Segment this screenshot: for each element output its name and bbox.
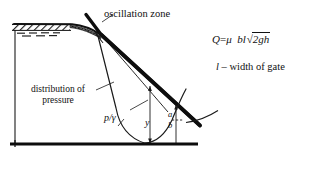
gate-profile-line (86, 15, 200, 126)
pressure-distribution-curve (98, 36, 186, 143)
ordinate-y-line (148, 86, 152, 144)
formula-radical: √2gh (246, 32, 271, 45)
water-surface-band (12, 24, 71, 30)
discharge-formula: Q=μ bl√2gh (212, 32, 270, 50)
formula-radicand: 2gh (252, 32, 271, 45)
note-symbol-l: l (216, 61, 219, 72)
gate-width-note: l – width of gate (216, 61, 285, 72)
label-depth-y: y (145, 118, 149, 129)
label-oscillation-zone: oscillation zone (104, 8, 170, 19)
leader-p-gamma (118, 100, 148, 126)
formula-Q: Q (212, 33, 220, 45)
formula-mu: μ (226, 33, 232, 45)
label-a: a (168, 110, 172, 119)
label-b: b (168, 121, 172, 130)
label-pressure-head: p/γ (104, 113, 116, 124)
note-dash: – (222, 61, 227, 72)
gate-under-edge (99, 33, 168, 112)
label-distribution-of-pressure: distribution of pressure (22, 84, 94, 106)
gate-toe-ordinate (174, 105, 178, 144)
formula-bl: bl (237, 33, 246, 45)
water-surface-dashes (17, 33, 60, 36)
note-text: width of gate (229, 61, 284, 72)
